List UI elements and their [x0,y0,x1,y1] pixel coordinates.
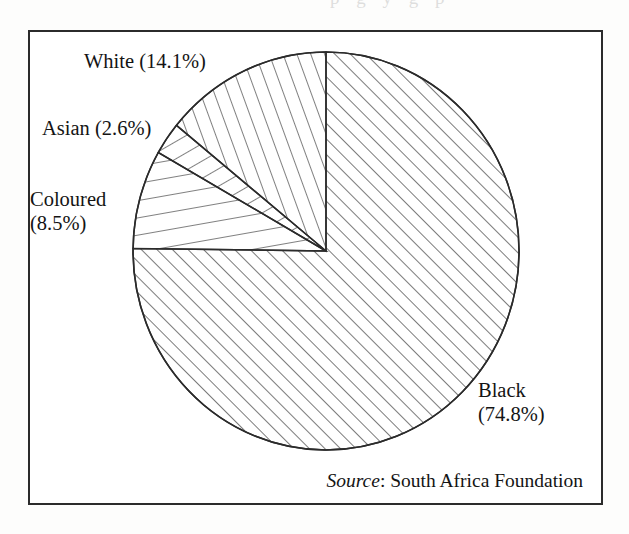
pie-label-black: Black (74.8%) [478,379,545,427]
figure-page: p g y g p [0,0,629,534]
source-separator: : [380,470,390,491]
pie-label-white: White (14.1%) [84,50,206,74]
source-value: South Africa Foundation [390,470,583,491]
source-label: Source [326,470,379,491]
source-note: Source: South Africa Foundation [326,470,583,492]
pie-chart [0,0,629,534]
pie-label-asian: Asian (2.6%) [42,117,151,141]
pie-label-coloured: Coloured (8.5%) [30,188,106,236]
pie-slices [133,52,519,450]
